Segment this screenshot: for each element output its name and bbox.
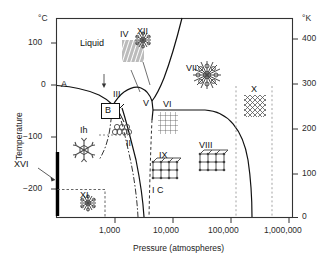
region-label-xvi: XVI xyxy=(14,160,29,169)
x-tick-label-1000: 1,000 xyxy=(99,226,120,235)
yr-tick-label-100: 100 xyxy=(302,169,316,178)
boundary-vi-viii-dashed xyxy=(149,120,152,217)
region-label-vi: VI xyxy=(163,100,172,109)
region-label-iv: IV xyxy=(120,30,129,39)
x-tick-label-10000: 10,000 xyxy=(153,226,179,235)
yr-tick-label-0: 0 xyxy=(302,212,307,221)
y-axis-left-ticks xyxy=(51,43,57,189)
region-label-ih: Ih xyxy=(80,126,88,135)
x-tick-label-1000000: 1,000,000 xyxy=(264,226,302,235)
region-label-ii: II xyxy=(126,139,131,148)
region-label-x: X xyxy=(251,85,257,94)
boundary-ix-vi xyxy=(122,108,144,217)
diagram-canvas xyxy=(0,0,328,261)
boundary-vi-left xyxy=(152,110,153,120)
boundary-ii-ix xyxy=(118,110,138,217)
iv-leader-line xyxy=(131,70,140,92)
region-label-ic: I C xyxy=(152,186,164,195)
xii-leader-line xyxy=(143,62,150,85)
region-label-vii: VII xyxy=(186,64,197,73)
y-axis-title: Temperature xyxy=(14,112,24,160)
y-tick-label-100: 100 xyxy=(28,38,42,47)
region-label-v: V xyxy=(143,99,149,108)
boundary-liquid-vii xyxy=(152,18,182,101)
region-label-xii: XII xyxy=(137,27,148,36)
crystal-x xyxy=(244,95,266,117)
region-label-ix: IX xyxy=(159,151,168,160)
crystal-ix xyxy=(152,158,181,179)
crystal-vi xyxy=(158,112,178,134)
region-label-xi: XI xyxy=(80,191,89,200)
x-tick-label-100000: 100,000 xyxy=(208,226,239,235)
xvi-leader-line xyxy=(38,168,55,180)
crystal-viii xyxy=(199,150,228,171)
crystal-vii xyxy=(193,61,221,89)
x-axis-ticks xyxy=(115,218,289,224)
yr-tick-label-200: 200 xyxy=(302,124,316,133)
boundary-vii-viii xyxy=(205,110,252,217)
y-tick-label-0: 0 xyxy=(41,80,46,89)
y-tick-label-neg200: −200 xyxy=(23,184,42,193)
yr-tick-label-400: 400 xyxy=(302,34,316,43)
crystal-iv xyxy=(122,40,144,62)
boundary-v-vi xyxy=(152,101,153,110)
y-tick-label-neg100: −100 xyxy=(23,132,42,141)
y-axis-left-unit: °C xyxy=(38,14,48,23)
region-label-iii: III xyxy=(113,90,121,99)
region-label-viii: VIII xyxy=(199,141,213,150)
crystal-ih xyxy=(73,138,95,162)
yr-tick-label-300: 300 xyxy=(302,79,316,88)
y-axis-right-unit: °K xyxy=(302,14,311,23)
x-axis-title: Pressure (atmospheres) xyxy=(133,244,224,253)
y-axis-right-ticks xyxy=(293,39,299,218)
iii-pointer xyxy=(102,74,106,88)
region-label-a: A xyxy=(61,80,67,89)
region-label-liquid: Liquid xyxy=(80,39,104,48)
region-label-b: B xyxy=(105,106,111,115)
phase-diagram-figure: B °C °K 100 0 −100 −200 400 300 200 100 … xyxy=(0,0,328,261)
